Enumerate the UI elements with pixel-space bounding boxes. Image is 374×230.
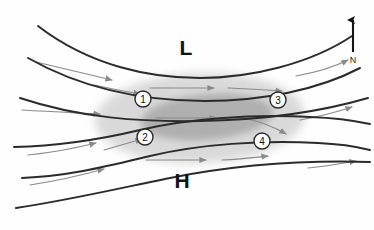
marker-label-2: 2 [142,132,148,143]
marker-label-4: 4 [259,136,265,147]
position-marker-4[interactable]: 4 [254,133,270,149]
position-marker-3[interactable]: 3 [270,92,286,108]
low-pressure-label: L [180,36,193,59]
position-marker-2[interactable]: 2 [137,129,153,145]
position-marker-1[interactable]: 1 [135,91,151,107]
marker-label-1: 1 [140,94,146,105]
diagram-canvas: L H N 1234 [0,0,374,230]
streamline-diagram: L H N 1234 [0,0,374,230]
north-label: N [350,55,357,65]
high-pressure-label: H [174,169,189,192]
marker-label-3: 3 [275,95,281,106]
